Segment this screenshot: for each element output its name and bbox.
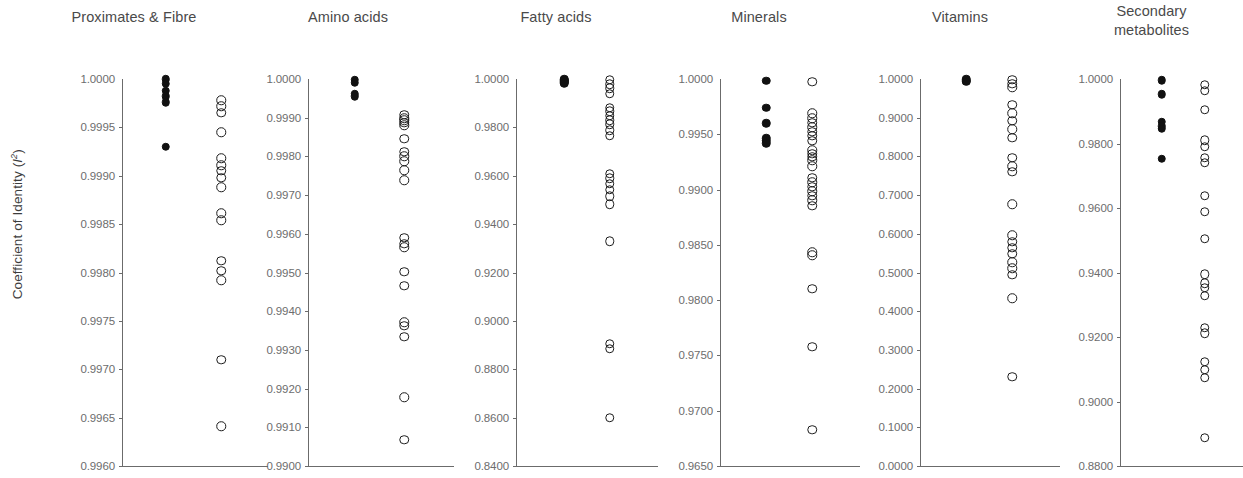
y-tick-label: 0.1000 xyxy=(878,421,913,433)
y-tick-mark xyxy=(513,273,516,274)
data-point-closed xyxy=(560,79,569,88)
data-point-open xyxy=(400,166,410,176)
data-point-open xyxy=(1200,86,1210,96)
data-point-open xyxy=(400,175,410,185)
y-tick-label: 0.9960 xyxy=(266,228,301,240)
y-tick-label: 0.9000 xyxy=(878,112,913,124)
data-point-open xyxy=(605,236,615,246)
data-point-open xyxy=(808,284,818,294)
x-axis-line xyxy=(920,466,1060,467)
data-point-open xyxy=(217,275,227,285)
y-tick-label: 0.9800 xyxy=(678,294,713,306)
data-point-open xyxy=(808,251,818,261)
data-point-open xyxy=(400,156,410,166)
plot-area: 1.00000.98000.96000.94000.92000.90000.88… xyxy=(454,0,658,478)
data-point-open xyxy=(1008,372,1018,382)
y-tick-mark xyxy=(119,466,122,467)
y-tick-label: 0.8800 xyxy=(474,363,509,375)
y-tick-mark xyxy=(917,389,920,390)
y-tick-mark xyxy=(717,411,720,412)
y-tick-mark xyxy=(1117,273,1120,274)
y-tick-mark xyxy=(917,234,920,235)
y-axis-line xyxy=(920,79,921,466)
y-tick-mark xyxy=(717,190,720,191)
data-point-closed xyxy=(1158,76,1167,85)
y-tick-mark xyxy=(305,195,308,196)
y-tick-mark xyxy=(119,176,122,177)
x-axis-line xyxy=(516,466,658,467)
data-point-open xyxy=(605,344,615,354)
y-tick-label: 0.6000 xyxy=(878,228,913,240)
data-point-open xyxy=(605,200,615,210)
data-point-open xyxy=(400,392,410,402)
y-tick-label: 0.9980 xyxy=(80,267,115,279)
y-tick-mark xyxy=(305,427,308,428)
data-point-open xyxy=(400,321,410,331)
y-tick-label: 1.0000 xyxy=(678,73,713,85)
data-point-open xyxy=(217,266,227,276)
data-point-open xyxy=(217,216,227,226)
y-tick-label: 0.9850 xyxy=(678,239,713,251)
data-point-open xyxy=(808,136,818,146)
data-point-open xyxy=(1008,133,1018,143)
y-tick-mark xyxy=(917,466,920,467)
data-point-closed xyxy=(350,79,359,88)
y-tick-label: 0.9990 xyxy=(266,112,301,124)
y-axis-line xyxy=(516,79,517,466)
y-tick-mark xyxy=(917,156,920,157)
data-point-open xyxy=(605,131,615,141)
data-point-closed xyxy=(762,119,771,128)
y-tick-label: 0.9600 xyxy=(1078,202,1113,214)
y-tick-label: 0.3000 xyxy=(878,344,913,356)
y-tick-mark xyxy=(119,224,122,225)
data-point-open xyxy=(1008,270,1018,280)
y-tick-mark xyxy=(119,418,122,419)
data-point-open xyxy=(217,183,227,193)
y-tick-mark xyxy=(1117,466,1120,467)
panel-secondary-metabolites: Secondarymetabolites1.00000.98000.96000.… xyxy=(1060,0,1243,478)
y-tick-label: 0.9950 xyxy=(266,267,301,279)
y-tick-mark xyxy=(717,466,720,467)
data-point-open xyxy=(808,162,818,172)
plot-area: 1.00000.99950.99900.99850.99800.99750.99… xyxy=(26,0,242,478)
data-point-open xyxy=(808,425,818,435)
data-point-closed xyxy=(762,103,771,112)
data-point-open xyxy=(217,422,227,432)
y-axis-label-container: Coefficient of Identity (I2) xyxy=(0,0,26,478)
y-tick-label: 0.9600 xyxy=(474,170,509,182)
y-tick-label: 0.7000 xyxy=(878,189,913,201)
data-point-open xyxy=(400,121,410,131)
data-point-open xyxy=(217,256,227,266)
data-point-closed xyxy=(762,76,771,85)
data-point-open xyxy=(1008,293,1018,303)
data-point-open xyxy=(1008,167,1018,177)
y-tick-mark xyxy=(717,355,720,356)
y-tick-label: 0.9980 xyxy=(266,150,301,162)
y-tick-mark xyxy=(119,369,122,370)
y-tick-mark xyxy=(513,224,516,225)
figure-root: Coefficient of Identity (I2) Proximates … xyxy=(0,0,1243,478)
x-axis-line xyxy=(720,466,860,467)
y-axis-label: Coefficient of Identity (I2) xyxy=(9,99,26,349)
plot-area: 1.00000.98000.96000.94000.92000.90000.88… xyxy=(1060,0,1243,478)
y-tick-mark xyxy=(513,321,516,322)
y-tick-label: 0.9930 xyxy=(266,344,301,356)
data-point-closed xyxy=(1158,90,1167,99)
plot-area: 1.00000.90000.80000.70000.60000.50000.40… xyxy=(860,0,1060,478)
data-point-open xyxy=(217,355,227,365)
data-point-closed xyxy=(1158,124,1167,133)
data-point-open xyxy=(1200,291,1210,301)
y-tick-mark xyxy=(917,311,920,312)
y-tick-label: 0.9750 xyxy=(678,349,713,361)
y-tick-mark xyxy=(917,273,920,274)
data-point-closed xyxy=(762,139,771,148)
y-tick-label: 0.9000 xyxy=(1078,396,1113,408)
y-tick-label: 0.9960 xyxy=(80,460,115,472)
y-tick-label: 0.8600 xyxy=(474,412,509,424)
y-tick-label: 0.9650 xyxy=(678,460,713,472)
y-tick-label: 0.9920 xyxy=(266,383,301,395)
y-tick-label: 0.9985 xyxy=(80,218,115,230)
y-tick-label: 1.0000 xyxy=(474,73,509,85)
y-tick-mark xyxy=(305,118,308,119)
y-tick-mark xyxy=(513,127,516,128)
